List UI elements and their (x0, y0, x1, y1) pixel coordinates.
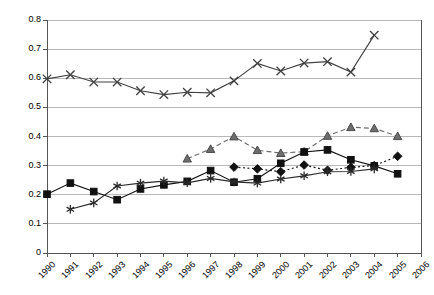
data-point-triangle (323, 132, 331, 140)
data-point-square (324, 147, 331, 154)
data-point-square (44, 191, 51, 198)
data-point-triangle (253, 146, 261, 154)
y-tick-label: 0.4 (11, 132, 41, 141)
series-line (47, 150, 398, 200)
data-point-diamond (230, 163, 239, 172)
data-point-square (67, 180, 74, 187)
series-triangle (183, 123, 402, 162)
y-tick-label: 0.7 (11, 44, 41, 53)
data-point-star (67, 205, 74, 214)
data-point-square (348, 157, 355, 164)
data-point-square (277, 160, 284, 167)
data-point-triangle (370, 124, 378, 132)
y-tick-label: 0 (11, 248, 41, 257)
data-point-x (277, 67, 285, 75)
data-point-square (301, 149, 308, 156)
line-chart-plot (0, 0, 434, 295)
data-point-triangle (206, 145, 214, 153)
series-line (187, 127, 397, 158)
data-point-square (114, 196, 121, 203)
data-point-diamond (393, 152, 402, 161)
data-point-x (347, 68, 355, 76)
y-tick-label: 0.8 (11, 15, 41, 24)
data-point-square (394, 170, 401, 177)
series-diamond (230, 152, 402, 176)
data-point-diamond (300, 161, 309, 170)
data-point-star (90, 199, 97, 208)
data-point-triangle (183, 154, 191, 162)
data-point-x (370, 31, 378, 39)
y-tick-label: 0.1 (11, 219, 41, 228)
y-tick-label: 0.6 (11, 73, 41, 82)
series-star (67, 165, 378, 214)
chart-container: 00.10.20.30.40.50.60.70.8 19901991199219… (0, 0, 434, 295)
y-tick-label: 0.3 (11, 161, 41, 170)
data-point-x (253, 59, 261, 67)
data-point-square (90, 188, 97, 195)
y-tick-label: 0.2 (11, 190, 41, 199)
y-tick-label: 0.5 (11, 102, 41, 111)
series-x (43, 31, 379, 99)
data-point-square (207, 167, 214, 174)
data-point-triangle (347, 123, 355, 131)
